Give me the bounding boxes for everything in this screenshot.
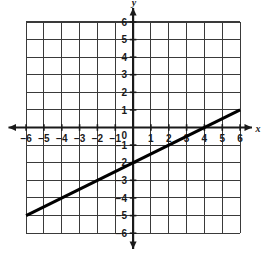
y-axis-label: y <box>131 0 137 8</box>
x-tick-label: 1 <box>148 133 154 144</box>
coordinate-plane-figure: −6 −5 −4 −3 −2 −1 1 2 3 4 5 6 6 5 4 3 2 … <box>0 0 266 256</box>
y-tick-label: 5 <box>121 34 127 45</box>
x-tick-label: 4 <box>202 133 208 144</box>
y-tick-label: 3 <box>121 69 127 80</box>
y-tick-label: 6 <box>121 17 127 28</box>
y-tick-label: 2 <box>121 87 127 98</box>
y-tick-label: −6 <box>116 228 128 239</box>
x-tick-label: −2 <box>92 133 104 144</box>
origin-label: 0 <box>121 130 127 141</box>
x-tick-label: −5 <box>38 133 50 144</box>
x-axis-label: x <box>255 123 261 134</box>
y-tick-label: 1 <box>121 105 127 116</box>
graph-svg: −6 −5 −4 −3 −2 −1 1 2 3 4 5 6 6 5 4 3 2 … <box>0 0 266 256</box>
x-tick-label: −3 <box>74 133 86 144</box>
x-tick-label: 5 <box>220 133 226 144</box>
y-tick-label: −4 <box>116 193 128 204</box>
y-tick-label: 4 <box>121 52 127 63</box>
y-tick-label: −1 <box>116 140 128 151</box>
y-tick-label: −3 <box>116 175 128 186</box>
x-tick-label: −4 <box>56 133 68 144</box>
x-tick-label: −6 <box>20 133 32 144</box>
x-tick-label: 6 <box>237 133 243 144</box>
x-tick-label: 2 <box>166 133 172 144</box>
y-tick-label: −5 <box>116 210 128 221</box>
